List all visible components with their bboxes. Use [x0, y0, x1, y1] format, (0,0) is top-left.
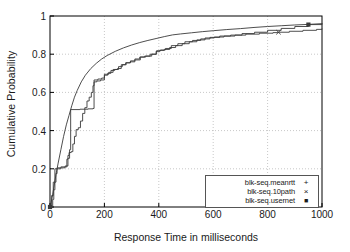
y-tick-label: 1 [22, 11, 46, 22]
legend-label-10path: blk-seq.10path [210, 187, 298, 196]
y-axis-label-wrap: Cumulative Probability [2, 0, 20, 207]
y-tick-label: 0.8 [22, 49, 46, 60]
y-axis-label: Cumulative Probability [5, 50, 17, 157]
legend-item-meanrtt: blk-seq.meanrtt + [210, 178, 314, 187]
legend-marker-cross-icon: × [298, 188, 314, 196]
y-tick-label: 0.2 [22, 163, 46, 174]
x-tick-label: 600 [205, 209, 222, 220]
legend-item-usernet: blk-seq.usernet ■ [210, 196, 314, 205]
legend-marker-square-icon: ■ [298, 197, 314, 205]
y-tick-label: 0 [22, 202, 46, 213]
x-tick-label: 800 [259, 209, 276, 220]
legend-marker-plus-icon: + [298, 179, 314, 187]
y-tick-label: 0.4 [22, 125, 46, 136]
legend: blk-seq.meanrtt + blk-seq.10path × blk-s… [205, 175, 319, 208]
y-tick-label: 0.6 [22, 87, 46, 98]
x-tick-label: 200 [96, 209, 113, 220]
legend-item-10path: blk-seq.10path × [210, 187, 314, 196]
x-axis-label: Response Time in milliseconds [50, 231, 322, 243]
legend-label-usernet: blk-seq.usernet [210, 196, 298, 205]
x-tick-label: 1000 [311, 209, 333, 220]
x-tick-label: 0 [47, 209, 53, 220]
legend-label-meanrtt: blk-seq.meanrtt [210, 178, 298, 187]
cdf-chart: Cumulative Probability Response Time in … [0, 0, 350, 252]
x-tick-label: 400 [150, 209, 167, 220]
